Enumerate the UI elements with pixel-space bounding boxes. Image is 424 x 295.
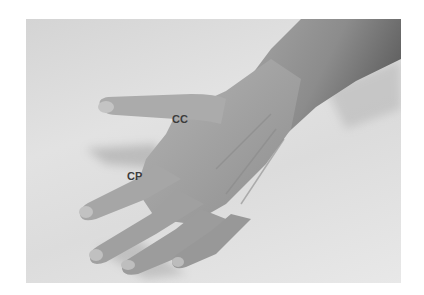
label-cp: CP	[127, 171, 142, 182]
index-fingernail	[79, 206, 93, 218]
little-fingernail	[172, 257, 184, 267]
thumbnail	[98, 101, 114, 113]
hand-photo: CC CP	[26, 19, 401, 283]
hand-illustration	[26, 19, 401, 283]
ring-fingernail	[121, 260, 135, 270]
thumb	[100, 94, 226, 124]
back-of-hand	[136, 59, 301, 224]
middle-fingernail	[89, 249, 103, 261]
label-cc: CC	[172, 114, 188, 125]
